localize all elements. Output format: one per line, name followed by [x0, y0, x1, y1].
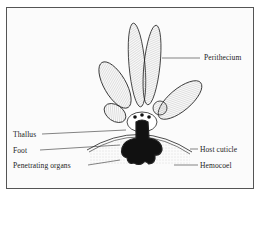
label-thallus: Thallus — [13, 130, 36, 139]
label-foot: Foot — [13, 146, 27, 155]
label-host-cuticle: Host cuticle — [200, 145, 237, 154]
label-penetrating-organs: Penetrating organs — [13, 161, 71, 170]
label-hemocoel: Hemocoel — [200, 161, 232, 170]
label-perithecium: Perithecium — [204, 53, 241, 62]
